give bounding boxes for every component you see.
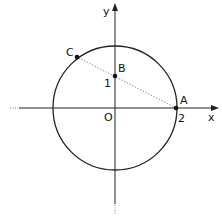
origin-label: O	[104, 111, 113, 124]
point-b-label: B	[118, 62, 126, 75]
point-a	[174, 106, 179, 111]
tick-label-2: 2	[178, 112, 185, 125]
point-c	[75, 55, 80, 60]
coordinate-diagram: y x O A 2 B 1 C	[0, 0, 222, 218]
y-axis-label: y	[103, 5, 110, 18]
point-c-label: C	[66, 46, 74, 59]
point-b	[113, 74, 118, 79]
x-axis-label: x	[208, 111, 215, 124]
point-a-label: A	[180, 94, 188, 107]
tick-label-1: 1	[104, 77, 111, 90]
segment-ac	[77, 57, 176, 108]
y-axis-arrow-icon	[112, 3, 118, 11]
